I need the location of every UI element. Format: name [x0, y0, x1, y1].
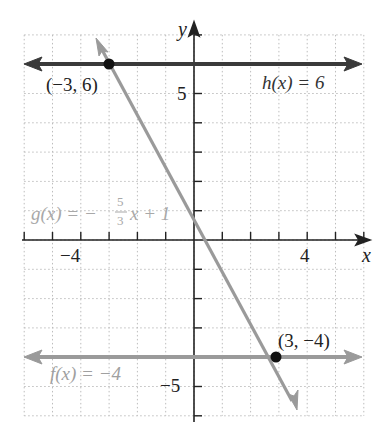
g-label-suffix: x + 1 [129, 203, 170, 224]
point1-label: (−3, 6) [46, 74, 98, 96]
h-label: h(x) = 6 [262, 72, 325, 94]
g-down-arrow-icon [288, 390, 298, 410]
y-tick-label-neg5: −5 [160, 375, 180, 396]
g-label-prefix: g(x) = − [31, 203, 97, 225]
y-axis-arrow-icon [189, 22, 199, 36]
point2-label: (3, −4) [278, 330, 330, 352]
x-tick-label-4: 4 [300, 245, 310, 266]
g-up-arrow-icon [96, 38, 108, 56]
x-tick-label-neg4: −4 [60, 245, 81, 266]
point-neg3-6 [104, 59, 115, 70]
h-line [24, 57, 362, 71]
f-label: f(x) = −4 [50, 363, 122, 385]
y-tick-label-5: 5 [177, 83, 187, 104]
f-line [24, 350, 362, 364]
graph-plot: (−3, 6) (3, −4) h(x) = 6 f(x) = −4 g(x) … [0, 0, 386, 442]
g-frac-num: 5 [117, 194, 124, 209]
g-frac-den: 3 [117, 213, 124, 228]
point-3-neg4 [271, 352, 282, 363]
x-axis-label: x [361, 244, 371, 266]
y-axis-label: y [176, 18, 187, 41]
